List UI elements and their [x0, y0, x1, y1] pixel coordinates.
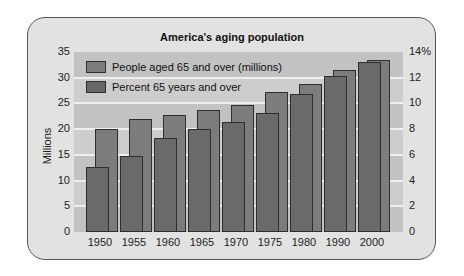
x-tick-label: 1980	[287, 236, 321, 248]
bar-millions-1990	[324, 76, 347, 232]
plot-area	[74, 52, 403, 232]
right-axis-tick: 10	[409, 96, 421, 108]
bar-millions-1960	[154, 138, 177, 232]
right-axis-tick: 8	[409, 122, 415, 134]
right-axis-tick: 2	[409, 199, 415, 211]
right-axis-tick: 14%	[409, 45, 431, 57]
x-tick-label: 1990	[321, 236, 355, 248]
left-axis-tick: 15	[44, 148, 70, 160]
left-axis-tick: 5	[44, 199, 70, 211]
chart-title: America's aging population	[0, 31, 464, 43]
x-tick-label: 1950	[83, 236, 117, 248]
right-axis-tick: 0	[409, 225, 415, 237]
x-tick-label: 1975	[253, 236, 287, 248]
left-axis-tick: 25	[44, 96, 70, 108]
right-axis-tick: 6	[409, 148, 415, 160]
left-axis-tick: 35	[44, 45, 70, 57]
x-tick-label: 1965	[185, 236, 219, 248]
right-axis-tick: 4	[409, 174, 415, 186]
legend-swatch-millions	[86, 61, 106, 73]
bar-millions-2000	[358, 62, 381, 232]
legend-swatch-percent	[86, 81, 106, 93]
x-tick-label: 1955	[117, 236, 151, 248]
x-tick-label: 1970	[219, 236, 253, 248]
legend-label-millions: People aged 65 and over (millions)	[112, 61, 282, 73]
bar-millions-1955	[120, 156, 143, 232]
legend-item-millions: People aged 65 and over (millions)	[86, 60, 282, 74]
left-axis-tick: 10	[44, 174, 70, 186]
legend-label-percent: Percent 65 years and over	[112, 81, 241, 93]
bar-millions-1970	[222, 122, 245, 232]
x-tick-label: 2000	[355, 236, 389, 248]
left-axis-tick: 20	[44, 122, 70, 134]
x-tick-label: 1960	[151, 236, 185, 248]
left-axis-tick: 0	[44, 225, 70, 237]
bar-millions-1975	[256, 113, 279, 232]
bar-millions-1965	[188, 129, 211, 232]
bar-millions-1980	[290, 94, 313, 232]
bar-millions-1950	[86, 167, 109, 232]
right-axis-tick: 12	[409, 71, 421, 83]
legend-item-percent: Percent 65 years and over	[86, 80, 241, 94]
left-axis-tick: 30	[44, 71, 70, 83]
